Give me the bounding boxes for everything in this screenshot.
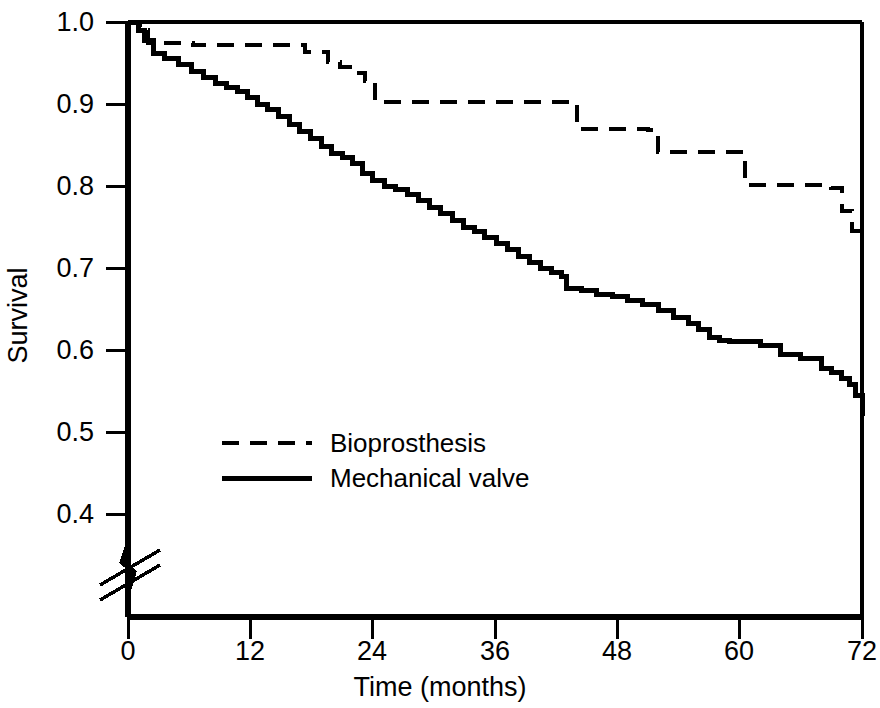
ytick-label-2: 0.8 <box>18 173 94 200</box>
ytick-label-0: 1.0 <box>18 9 94 36</box>
series-group <box>128 22 862 416</box>
series-line-mechanical-valve <box>128 22 862 416</box>
xtick-label-3: 36 <box>480 638 510 665</box>
y-axis-ticks <box>106 22 128 514</box>
xtick-label-2: 24 <box>357 638 387 665</box>
plot-canvas <box>0 0 880 708</box>
series-line-bioprosthesis <box>128 22 862 256</box>
x-axis-title: Time (months) <box>0 672 880 703</box>
y-axis-title: Survival <box>3 246 34 386</box>
xtick-label-4: 48 <box>602 638 632 665</box>
survival-chart-figure: 1.0 0.9 0.8 0.7 0.6 0.5 0.4 0 12 24 36 4… <box>0 0 880 708</box>
xtick-label-5: 60 <box>724 638 754 665</box>
xtick-label-1: 12 <box>235 638 265 665</box>
xtick-label-0: 0 <box>120 638 135 665</box>
legend-keys <box>222 443 312 478</box>
ytick-label-5: 0.5 <box>18 419 94 446</box>
legend-label-mechanical-valve: Mechanical valve <box>330 465 529 491</box>
plot-frame <box>128 22 862 617</box>
ytick-label-1: 0.9 <box>18 91 94 118</box>
legend-label-bioprosthesis: Bioprosthesis <box>330 430 486 456</box>
xtick-label-6: 72 <box>847 638 877 665</box>
ytick-label-6: 0.4 <box>18 501 94 528</box>
